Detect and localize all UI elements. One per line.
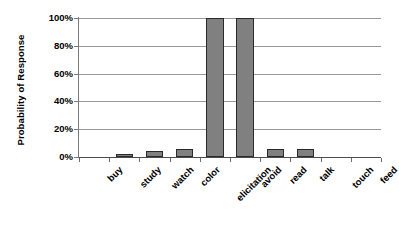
x-tick-label-read: read <box>287 164 309 186</box>
x-tick-mark <box>351 158 352 162</box>
bar-elicitation <box>206 18 224 157</box>
x-tick-mark <box>230 158 231 162</box>
x-tick-label-touch: touch <box>349 164 375 190</box>
x-tick-label-watch: watch <box>168 164 195 191</box>
y-tick-mark <box>74 74 79 75</box>
x-tick-mark <box>79 158 80 162</box>
x-tick-mark <box>170 158 171 162</box>
bar-read <box>267 149 285 157</box>
bar-talk <box>297 149 315 157</box>
y-axis-tick-labels: 0%20%40%60%80%100% <box>0 0 73 230</box>
y-tick-label: 80% <box>3 41 73 51</box>
bar-chart: Probability of Response 0%20%40%60%80%10… <box>0 0 399 230</box>
x-tick-label-text: color <box>197 164 221 188</box>
y-tick-label: 100% <box>3 13 73 23</box>
gridline <box>79 101 381 102</box>
gridline <box>79 46 381 47</box>
x-tick-mark <box>321 158 322 162</box>
x-tick-mark <box>260 158 261 162</box>
plot-area <box>79 18 381 157</box>
x-tick-mark <box>290 158 291 162</box>
x-tick-label-text: talk <box>316 164 335 183</box>
y-tick-mark <box>74 18 79 19</box>
x-tick-mark <box>139 158 140 162</box>
bar-avoid <box>236 18 254 157</box>
x-tick-label-text: read <box>287 164 309 186</box>
x-tick-label-buy: buy <box>105 164 125 184</box>
x-tick-label-text: watch <box>168 164 195 191</box>
x-tick-label-text: feed <box>378 164 399 186</box>
x-tick-label-text: touch <box>349 164 375 190</box>
gridline <box>79 129 381 130</box>
x-tick-label-feed: feed <box>378 164 399 186</box>
x-tick-mark <box>109 158 110 162</box>
y-tick-label: 60% <box>3 69 73 79</box>
y-tick-label: 20% <box>3 124 73 134</box>
y-tick-mark <box>74 46 79 47</box>
gridline <box>79 74 381 75</box>
x-tick-label-text: buy <box>105 164 125 184</box>
y-tick-mark <box>74 129 79 130</box>
y-tick-label: 40% <box>3 96 73 106</box>
x-tick-label-talk: talk <box>316 164 335 183</box>
y-tick-mark <box>74 101 79 102</box>
bar-study <box>116 154 134 157</box>
y-tick-label: 0% <box>3 152 73 162</box>
x-tick-mark <box>381 158 382 162</box>
x-tick-label-study: study <box>138 164 164 190</box>
x-tick-label-color: color <box>197 164 221 188</box>
bar-watch <box>146 151 164 157</box>
x-tick-mark <box>200 158 201 162</box>
gridline <box>79 18 381 19</box>
bar-color <box>176 149 194 157</box>
x-tick-label-text: study <box>138 164 164 190</box>
